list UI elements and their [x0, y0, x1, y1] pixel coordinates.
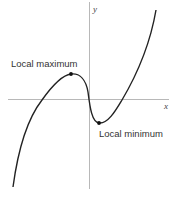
y-axis-label: y — [92, 4, 97, 14]
cubic-curve — [13, 10, 156, 187]
local-maximum-point — [69, 72, 73, 76]
local-minimum-label: Local minimum — [99, 128, 163, 139]
local-maximum-label: Local maximum — [11, 58, 78, 69]
local-minimum-point — [97, 121, 101, 125]
x-axis-label: x — [163, 101, 168, 111]
function-graph: Local maximum Local minimum x y — [0, 0, 177, 201]
